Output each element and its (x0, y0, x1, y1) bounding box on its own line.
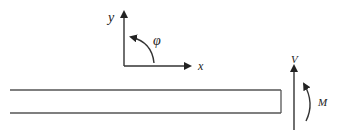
moment-label: M (317, 96, 328, 108)
diagram-svg: y x φ V M (0, 0, 338, 136)
end-loads: V M (291, 53, 328, 130)
beam-diagram: y x φ V M (0, 0, 338, 136)
angle-label: φ (153, 33, 161, 48)
x-axis-label: x (197, 59, 204, 73)
beam (10, 90, 281, 113)
coordinate-axes: y x φ (106, 10, 204, 73)
moment-arrow (304, 84, 310, 121)
y-axis-label: y (106, 10, 115, 25)
rotation-angle-arrow (131, 37, 154, 63)
shear-force-label: V (291, 53, 299, 65)
